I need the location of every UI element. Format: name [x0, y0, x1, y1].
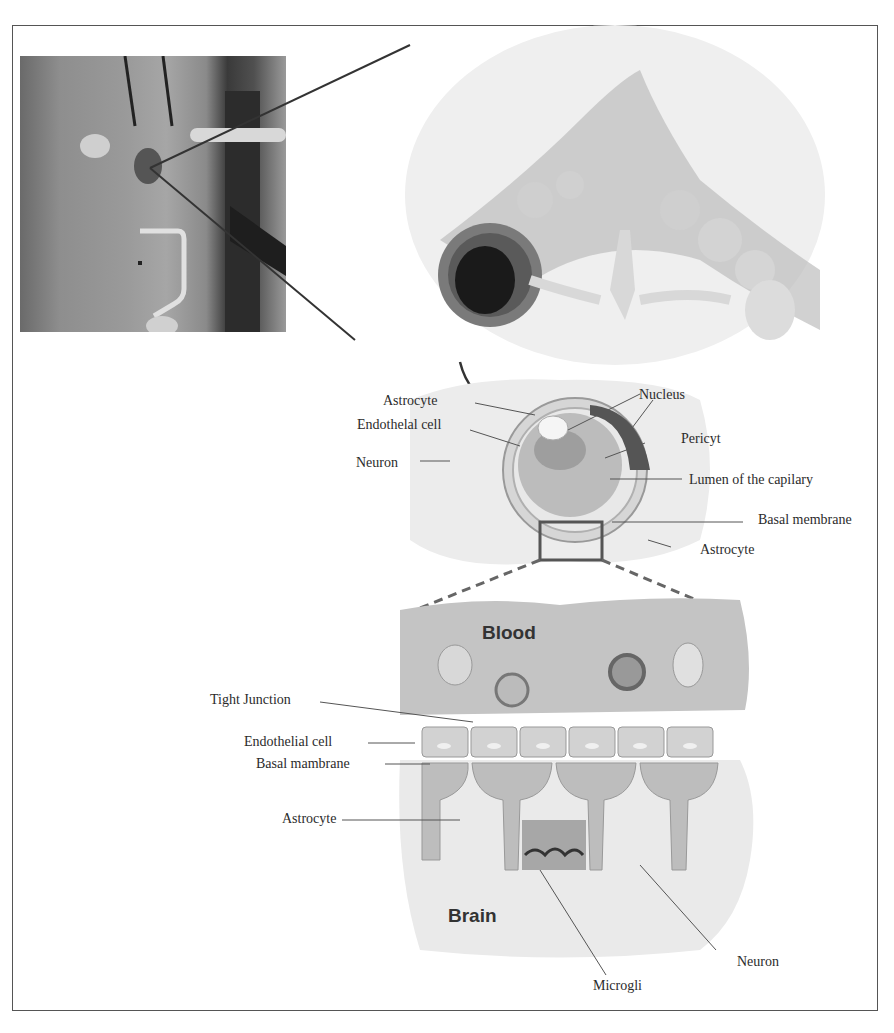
label-endothelial-cell: Endothelial cell	[244, 734, 332, 750]
capillary-cross-section	[410, 379, 710, 564]
label-nucleus: Nucleus	[639, 387, 685, 403]
label-astrocyte-top: Astrocyte	[383, 393, 437, 409]
label-basal-membrane: Basal membrane	[758, 512, 852, 528]
label-microglia: Microgli	[593, 978, 642, 994]
barrier-detail	[399, 598, 753, 957]
label-lumen: Lumen of the capilary	[689, 472, 813, 488]
label-basal-mambrane: Basal mambrane	[256, 756, 350, 772]
label-pericyte: Pericyt	[681, 431, 721, 447]
label-endothelal-cell: Endothelal cell	[357, 417, 441, 433]
label-neuron-cross: Neuron	[356, 455, 398, 471]
region-brain: Brain	[448, 905, 497, 927]
label-neuron: Neuron	[737, 954, 779, 970]
label-astrocyte-bottom: Astrocyte	[700, 542, 754, 558]
label-tight-junction: Tight Junction	[210, 692, 291, 708]
label-astrocyte: Astrocyte	[282, 811, 336, 827]
region-blood: Blood	[482, 622, 536, 644]
capillary-3d-illustration	[405, 25, 825, 365]
